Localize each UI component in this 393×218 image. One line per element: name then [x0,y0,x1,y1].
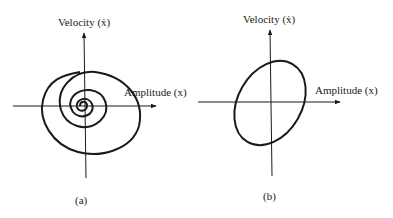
panel-b: Velocity (ẋ) Amplitude (x) (b) [198,13,378,203]
panel-a: Velocity (ẋ) Amplitude (x) (a) [13,16,187,207]
panel-caption: (a) [75,194,88,207]
y-axis [270,30,272,176]
x-axis-label: Amplitude (x) [315,84,378,97]
y-axis-label: Velocity (ẋ) [243,13,296,26]
y-axis-label: Velocity (ẋ) [58,16,111,29]
phase-portrait-figure: Velocity (ẋ) Amplitude (x) (a) Velocity … [0,0,393,218]
panel-caption: (b) [263,190,276,203]
spiral-trajectory [42,72,140,154]
x-axis-label: Amplitude (x) [124,86,187,99]
